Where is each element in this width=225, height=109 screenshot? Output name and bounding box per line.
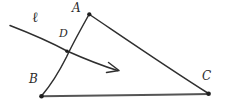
segment-bc <box>42 94 210 96</box>
vertex-dot-a <box>87 12 91 16</box>
vertex-dot-c <box>206 92 211 97</box>
point-dot-d <box>65 50 68 53</box>
point-label-d: D <box>59 28 68 39</box>
vertex-label-b: B <box>29 73 38 85</box>
vertex-dot-b <box>39 94 44 99</box>
segment-ac <box>90 15 209 94</box>
vertex-label-c: C <box>202 70 211 82</box>
vertex-label-a: A <box>72 2 81 14</box>
geometry-diagram: A B C D ℓ <box>0 0 225 109</box>
